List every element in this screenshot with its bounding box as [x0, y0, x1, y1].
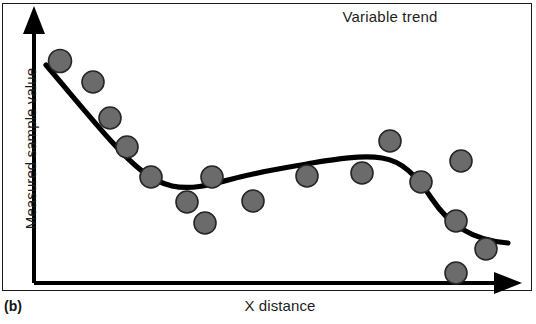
data-point: [445, 262, 467, 284]
data-point: [242, 190, 264, 212]
scatter-markers: [49, 50, 498, 285]
data-point: [450, 150, 472, 172]
chart-title: Variable trend: [300, 8, 480, 25]
figure-panel: Variable trend Measured sample value X d…: [0, 0, 536, 324]
data-point: [176, 191, 198, 213]
data-point: [379, 130, 401, 152]
data-point: [351, 162, 373, 184]
trend-line: [46, 65, 508, 243]
data-point: [194, 212, 216, 234]
data-point: [296, 165, 318, 187]
chart-plot-area: [0, 0, 536, 324]
data-point: [475, 238, 497, 260]
data-point: [82, 71, 104, 93]
data-point: [445, 210, 467, 232]
panel-caption: (b): [4, 298, 22, 314]
data-point: [49, 50, 72, 73]
data-point: [99, 107, 121, 129]
y-axis-label: Measured sample value: [22, 39, 39, 259]
data-point: [116, 136, 138, 158]
y-axis-arrow-icon: [23, 6, 45, 34]
data-point: [410, 171, 432, 193]
x-axis-arrow-icon: [494, 272, 522, 294]
data-point: [140, 166, 162, 188]
data-point: [201, 166, 223, 188]
x-axis-label: X distance: [180, 297, 380, 314]
